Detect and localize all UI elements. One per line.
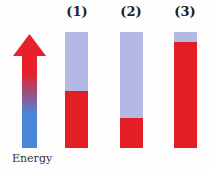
bar-label-2: (2): [116, 4, 146, 19]
bar-label-1: (1): [62, 4, 92, 19]
bar-3: [174, 32, 197, 148]
energy-arrow-icon: [13, 34, 46, 148]
energy-label: Energy: [12, 152, 52, 165]
bar-1: [65, 32, 88, 148]
bar-3-fill: [174, 42, 197, 148]
bar-label-3: (3): [170, 4, 200, 19]
bar-1-fill: [65, 91, 88, 148]
bar-2: [120, 32, 143, 148]
bar-2-fill: [120, 118, 143, 148]
